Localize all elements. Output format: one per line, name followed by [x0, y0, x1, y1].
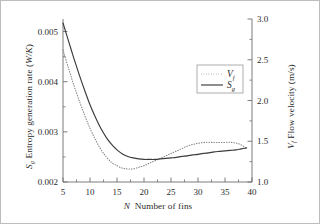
y-right-subscript: f	[290, 141, 297, 143]
y-left-subscript: g	[28, 161, 35, 164]
y-left-tick-label: 0.002	[38, 177, 58, 187]
data-series-layer	[63, 23, 247, 169]
y-right-tick-label: 2.5	[257, 55, 269, 65]
y-left-unit: W/K	[24, 47, 34, 64]
y-left-tick-label: 0.005	[38, 27, 59, 37]
x-tick-label: 40	[248, 187, 258, 197]
y-right-tick-label: 2.0	[257, 96, 269, 106]
y-right-tick-label: 3.0	[257, 14, 269, 24]
y-left-text: Entropy generation rate (	[24, 64, 34, 159]
legend-box[interactable]	[197, 65, 243, 93]
x-tick-label: 25	[167, 187, 177, 197]
y-right-tick-label: 1.5	[257, 136, 269, 146]
y-left-symbol: S	[24, 164, 34, 169]
axes-frame	[63, 19, 252, 182]
x-tick-label: 20	[140, 187, 150, 197]
x-symbol: N	[124, 201, 130, 211]
x-tick-label: 30	[194, 187, 204, 197]
chart-plot-area: 5101520253035400.0020.0030.0040.0051.01.…	[1, 1, 320, 224]
x-tick-label: 5	[61, 187, 66, 197]
axis-tick-labels: 5101520253035400.0020.0030.0040.0051.01.…	[38, 14, 269, 197]
x-tick-label: 35	[221, 187, 231, 197]
y-right-symbol: V	[286, 143, 296, 149]
y-left-close: )	[24, 44, 34, 47]
x-tick-label: 10	[86, 187, 96, 197]
y-left-tick-label: 0.003	[38, 127, 59, 137]
axis-ticks	[63, 19, 252, 182]
y-axis-right-title: Vf Flow velocity (m/s)	[286, 17, 297, 197]
x-text: Number of fins	[135, 201, 193, 211]
y-right-tick-label: 1.0	[257, 177, 269, 187]
y-left-tick-label: 0.004	[38, 77, 59, 87]
x-tick-label: 15	[113, 187, 123, 197]
chart-figure: 5101520253035400.0020.0030.0040.0051.01.…	[0, 0, 320, 224]
chart-legend[interactable]: VfSg	[197, 65, 243, 93]
y-right-text: Flow velocity (m/s)	[286, 64, 296, 138]
x-axis-title: N Number of fins	[63, 201, 253, 211]
y-axis-left-title: Sg Entropy generation rate (W/K)	[24, 17, 35, 197]
